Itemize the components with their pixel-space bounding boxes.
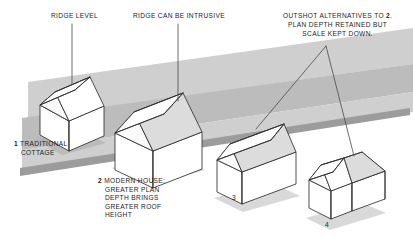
- callout-4-number: 4: [325, 221, 329, 230]
- outshot-line-1-text: OUTSHOT ALTERNATIVES TO: [283, 12, 386, 19]
- diagram-canvas: .ink { fill: none; stroke: #2f2f2f; stro…: [0, 0, 413, 239]
- callout-2-text-3: DEPTH BRINGS: [98, 194, 165, 203]
- callout-2-text-4: GREATER ROOF: [98, 203, 165, 212]
- outshot-line-3: SCALE KEPT DOWN.: [283, 29, 392, 38]
- house-4-cross-gable: [306, 152, 386, 230]
- callout-1-number: 1: [14, 140, 18, 147]
- callout-1-text-2: COTTAGE: [14, 149, 68, 158]
- callout-3-number: 3: [232, 194, 236, 203]
- annotation-ridge-can-be-intrusive: RIDGE CAN BE INTRUSIVE: [133, 12, 225, 21]
- callout-2-line-1: 2 MODERN HOUSE:: [98, 177, 165, 186]
- callout-2-modern-house: 2 MODERN HOUSE:GREATER PLANDEPTH BRINGSG…: [98, 177, 165, 220]
- callout-2-number: 2: [98, 177, 102, 184]
- callout-2-text-1: MODERN HOUSE:: [104, 177, 165, 184]
- outshot-line-2: PLAN DEPTH RETAINED BUT: [283, 20, 392, 29]
- callout-1-traditional-cottage: 1 TRADITIONALCOTTAGE: [14, 140, 68, 157]
- outshot-line-1-period: .: [390, 12, 392, 19]
- annotation-outshot-alternatives: OUTSHOT ALTERNATIVES TO 2.PLAN DEPTH RET…: [283, 11, 392, 39]
- callout-2-text-5: HEIGHT: [98, 211, 165, 220]
- outshot-line-1: OUTSHOT ALTERNATIVES TO 2.: [283, 11, 392, 20]
- callout-1-text-1: TRADITIONAL: [20, 140, 67, 147]
- callout-1-line-1: 1 TRADITIONAL: [14, 140, 68, 149]
- callout-2-text-2: GREATER PLAN: [98, 186, 165, 195]
- annotation-ridge-level: RIDGE LEVEL: [51, 12, 98, 21]
